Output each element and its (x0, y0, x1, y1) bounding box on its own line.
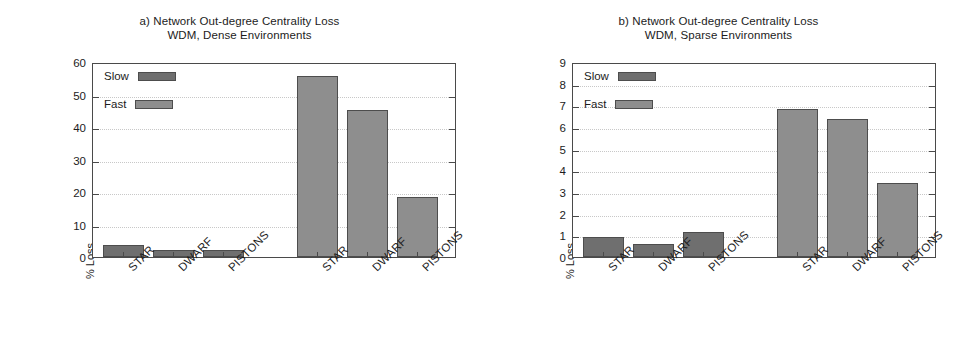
y-axis-tick-right (929, 194, 935, 195)
panel-b: b) Network Out-degree Centrality Loss WD… (479, 0, 958, 345)
y-axis-tick-right (449, 129, 455, 130)
y-axis-tick-label: 20 (54, 187, 86, 199)
panel-a-title-line1: a) Network Out-degree Centrality Loss (140, 15, 340, 27)
y-axis-tick-label: 0 (54, 252, 86, 264)
panel-a-plot-inner (93, 64, 455, 257)
x-axis-tick (367, 252, 368, 257)
y-axis-tick-label: 9 (534, 57, 566, 69)
x-axis-tick (173, 252, 174, 257)
y-axis-tick (573, 151, 579, 152)
y-axis-tick-label: 5 (534, 144, 566, 156)
panel-a-title-line2: WDM, Dense Environments (0, 28, 479, 42)
x-axis-tick (653, 252, 654, 257)
panel-a-legend-fast-swatch (135, 100, 173, 109)
y-axis-tick-right (929, 107, 935, 108)
y-axis-tick (573, 237, 579, 238)
y-axis-tick-label: 1 (534, 230, 566, 242)
gridline (573, 86, 935, 88)
y-axis-tick-label: 6 (534, 122, 566, 134)
figure-two-panel-bar-charts: a) Network Out-degree Centrality Loss WD… (0, 0, 958, 345)
panel-b-legend-slow-label: Slow (584, 70, 609, 82)
y-axis-tick-right (449, 227, 455, 228)
bar-fast-star (297, 76, 338, 257)
bar-fast-dwarf (347, 110, 388, 257)
y-axis-tick-right (449, 194, 455, 195)
panel-b-plot-area (572, 63, 936, 258)
panel-b-legend-fast-label: Fast (584, 98, 606, 110)
gridline (573, 151, 935, 153)
y-axis-tick-label: 3 (534, 187, 566, 199)
x-axis-tick (897, 252, 898, 257)
gridline (573, 129, 935, 131)
x-axis-tick (703, 252, 704, 257)
panel-b-plot-inner (573, 64, 935, 257)
panel-b-legend-fast-swatch (615, 100, 653, 109)
y-axis-tick-label: 2 (534, 209, 566, 221)
y-axis-tick-right (929, 151, 935, 152)
y-axis-tick-label: 7 (534, 100, 566, 112)
panel-a-legend-slow-swatch (138, 72, 176, 81)
y-axis-tick (93, 194, 99, 195)
panel-b-legend-fast: Fast (584, 98, 653, 110)
bar-fast-star (777, 109, 818, 257)
panel-a-legend-fast: Fast (104, 98, 173, 110)
x-axis-tick (797, 252, 798, 257)
y-axis-tick-label: 10 (54, 220, 86, 232)
y-axis-tick (573, 194, 579, 195)
y-axis-tick-right (929, 86, 935, 87)
y-axis-tick-label: 50 (54, 90, 86, 102)
y-axis-tick (573, 172, 579, 173)
y-axis-tick (573, 107, 579, 108)
x-axis-tick (123, 252, 124, 257)
y-axis-tick-right (449, 162, 455, 163)
bar-fast-dwarf (827, 119, 868, 257)
panel-b-legend-slow-swatch (618, 72, 656, 81)
gridline (93, 129, 455, 131)
panel-b-title-line1: b) Network Out-degree Centrality Loss (619, 15, 819, 27)
panel-b-legend-slow: Slow (584, 70, 656, 82)
y-axis-tick-right (929, 129, 935, 130)
panel-a-title: a) Network Out-degree Centrality Loss WD… (0, 14, 479, 42)
y-axis-tick-right (929, 172, 935, 173)
y-axis-tick-label: 40 (54, 122, 86, 134)
x-axis-tick (603, 252, 604, 257)
y-axis-tick-label: 0 (534, 252, 566, 264)
y-axis-tick (573, 86, 579, 87)
x-axis-tick (317, 252, 318, 257)
x-axis-tick (847, 252, 848, 257)
y-axis-tick-label: 8 (534, 79, 566, 91)
gridline (573, 172, 935, 174)
panel-a-legend-fast-label: Fast (104, 98, 126, 110)
gridline (93, 194, 455, 196)
x-axis-tick (417, 252, 418, 257)
y-axis-tick-label: 60 (54, 57, 86, 69)
y-axis-tick (573, 216, 579, 217)
y-axis-tick-label: 4 (534, 165, 566, 177)
y-axis-tick (573, 129, 579, 130)
x-axis-tick (223, 252, 224, 257)
y-axis-tick-label: 30 (54, 155, 86, 167)
gridline (93, 162, 455, 164)
panel-a-legend-slow-label: Slow (104, 70, 129, 82)
y-axis-tick (93, 97, 99, 98)
y-axis-tick (93, 227, 99, 228)
panel-a-plot-area (92, 63, 456, 258)
panel-a: a) Network Out-degree Centrality Loss WD… (0, 0, 479, 345)
panel-a-legend-slow: Slow (104, 70, 176, 82)
y-axis-tick-right (449, 97, 455, 98)
y-axis-tick (93, 129, 99, 130)
panel-b-title: b) Network Out-degree Centrality Loss WD… (479, 14, 958, 42)
panel-b-title-line2: WDM, Sparse Environments (479, 28, 958, 42)
y-axis-tick-right (929, 216, 935, 217)
y-axis-tick (93, 162, 99, 163)
